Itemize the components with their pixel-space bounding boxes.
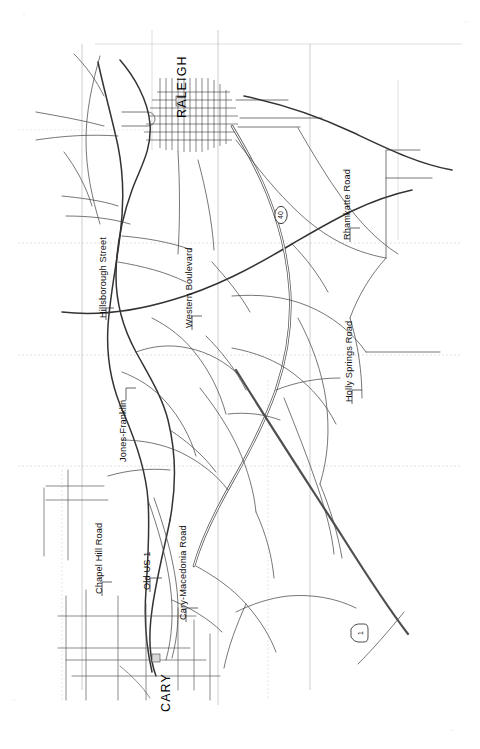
map-canvas[interactable]: 40 1 RALEIGH CARY Hillsborough Street We… (0, 0, 480, 749)
street-label-jones-franklin: Jones-Franklin (118, 400, 128, 462)
street-label-hillsborough-street: Hillsborough Street (98, 237, 108, 318)
city-label-cary: CARY (159, 673, 173, 712)
shield-i40-number: 40 (277, 211, 284, 219)
street-label-chapel-hill-road: Chapel Hill Road (94, 523, 104, 594)
city-label-raleigh: RALEIGH (175, 55, 189, 118)
street-label-rhamkatte-road: Rhamkatte Road (342, 169, 352, 240)
street-label-old-us-1: Old US 1 (142, 552, 152, 590)
shield-us1[interactable]: 1 (351, 624, 368, 642)
shield-us1-number: 1 (357, 631, 364, 635)
street-label-holly-springs-road: Holly Springs Road (344, 321, 354, 402)
shield-i40[interactable]: 40 (275, 206, 287, 223)
street-label-western-boulevard: Western Boulevard (184, 247, 194, 328)
cary-town-center-block (152, 654, 160, 662)
street-label-cary-macedonia-road: Cary-Macedonia Road (178, 525, 188, 620)
map-vector-layer: 40 1 RALEIGH CARY Hillsborough Street We… (0, 0, 480, 749)
